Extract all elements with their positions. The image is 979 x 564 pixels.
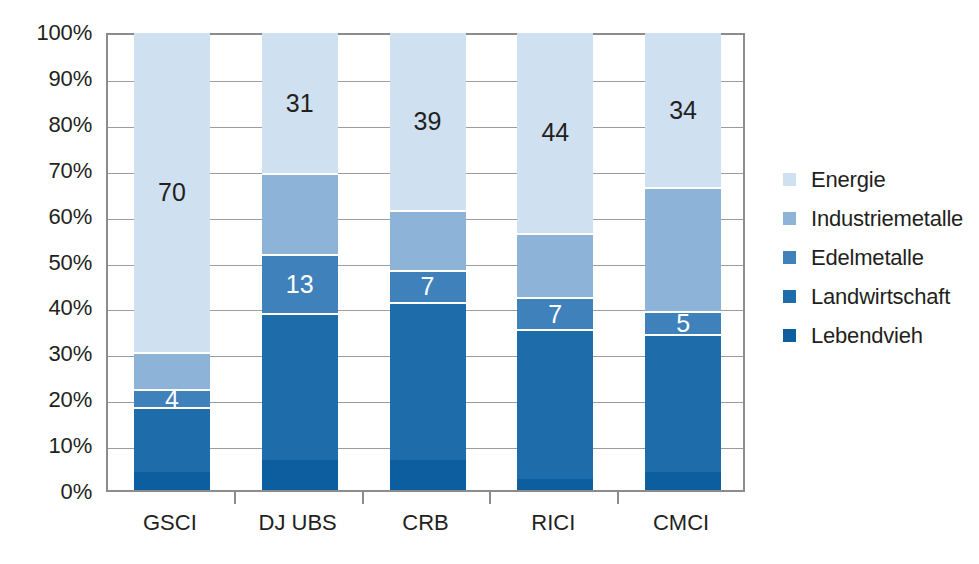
bar-segment[interactable] — [134, 407, 210, 471]
legend-swatch-icon — [783, 212, 796, 225]
bar-segment[interactable] — [517, 329, 593, 478]
bar-segment[interactable]: 7 — [517, 297, 593, 329]
x-tick-label: CRB — [402, 510, 448, 536]
legend-swatch-icon — [783, 173, 796, 186]
bar-segment[interactable]: 44 — [517, 31, 593, 233]
bar-value-label: 13 — [286, 272, 314, 297]
legend-swatch-icon — [783, 290, 796, 303]
legend-label: Industriemetalle — [811, 206, 963, 232]
bar-segment[interactable] — [390, 210, 466, 270]
bar-series-group: 4701331739744534 — [108, 35, 743, 490]
bar-segment[interactable] — [390, 302, 466, 460]
legend-swatch-icon — [783, 329, 796, 342]
y-tick-label: 50% — [49, 250, 92, 276]
bar-segment[interactable] — [390, 460, 466, 490]
y-tick-label: 70% — [49, 158, 92, 184]
bar-segment[interactable] — [262, 313, 338, 460]
y-tick-label: 10% — [49, 433, 92, 459]
legend-item[interactable]: Edelmetalle — [783, 238, 979, 277]
x-tickmark — [234, 492, 236, 504]
bar-value-label: 39 — [414, 109, 442, 134]
x-tickmark — [362, 492, 364, 504]
legend-label: Landwirtschaft — [811, 284, 950, 310]
bar-segment[interactable] — [517, 479, 593, 490]
bar-value-label: 34 — [669, 98, 697, 123]
chart-legend: EnergieIndustriemetalleEdelmetalleLandwi… — [783, 160, 979, 355]
bar-segment[interactable] — [134, 352, 210, 389]
bar-segment[interactable] — [262, 173, 338, 253]
legend-item[interactable]: Industriemetalle — [783, 199, 979, 238]
x-tick-label: CMCI — [653, 510, 709, 536]
bar-segment[interactable] — [645, 187, 721, 311]
legend-label: Energie — [811, 167, 885, 193]
bar-segment[interactable] — [262, 460, 338, 490]
bar-value-label: 7 — [548, 302, 562, 327]
bar-segment[interactable]: 34 — [645, 31, 721, 187]
legend-item[interactable]: Lebendvieh — [783, 316, 979, 355]
plot-area: 4701331739744534 — [106, 33, 745, 492]
y-tick-label: 20% — [49, 387, 92, 413]
x-tick-label: DJ UBS — [259, 510, 337, 536]
legend-item[interactable]: Energie — [783, 160, 979, 199]
bar-segment[interactable] — [134, 472, 210, 490]
legend-item[interactable]: Landwirtschaft — [783, 277, 979, 316]
x-tick-label: GSCI — [143, 510, 197, 536]
y-tick-label: 40% — [49, 295, 92, 321]
bar-column[interactable]: 534 — [645, 35, 721, 490]
y-tick-label: 60% — [49, 204, 92, 230]
x-tick-label: RICI — [531, 510, 575, 536]
bar-stack: 739 — [390, 35, 466, 490]
bar-stack: 744 — [517, 35, 593, 490]
bar-segment[interactable]: 13 — [262, 254, 338, 314]
y-tick-label: 30% — [49, 341, 92, 367]
x-tickmark — [617, 492, 619, 504]
x-axis: GSCIDJ UBSCRBRICICMCI — [106, 492, 745, 552]
legend-swatch-icon — [783, 251, 796, 264]
y-tick-label: 100% — [37, 20, 92, 46]
bar-segment[interactable] — [645, 334, 721, 472]
bar-segment[interactable]: 7 — [390, 270, 466, 302]
bar-segment[interactable]: 4 — [134, 389, 210, 407]
bar-stack: 534 — [645, 35, 721, 490]
bar-segment[interactable] — [517, 233, 593, 297]
bar-column[interactable]: 739 — [390, 35, 466, 490]
bar-stack: 470 — [134, 35, 210, 490]
bar-stack: 1331 — [262, 35, 338, 490]
y-tick-label: 90% — [49, 66, 92, 92]
y-tick-label: 0% — [61, 479, 92, 505]
legend-label: Edelmetalle — [811, 245, 924, 271]
x-tickmark — [489, 492, 491, 504]
chart-figure: 0%10%20%30%40%50%60%70%80%90%100% 470133… — [0, 0, 979, 564]
bar-value-label: 7 — [421, 274, 435, 299]
bar-column[interactable]: 1331 — [262, 35, 338, 490]
bar-value-label: 31 — [286, 91, 314, 116]
bar-column[interactable]: 744 — [517, 35, 593, 490]
bar-column[interactable]: 470 — [134, 35, 210, 490]
bar-segment[interactable]: 39 — [390, 31, 466, 210]
bar-value-label: 70 — [158, 180, 186, 205]
bar-segment[interactable]: 31 — [262, 31, 338, 173]
bar-segment[interactable]: 70 — [134, 31, 210, 352]
y-tick-label: 80% — [49, 112, 92, 138]
bar-value-label: 5 — [676, 311, 690, 336]
y-axis: 0%10%20%30%40%50%60%70%80%90%100% — [0, 33, 100, 492]
bar-segment[interactable]: 5 — [645, 311, 721, 334]
legend-label: Lebendvieh — [811, 323, 923, 349]
bar-segment[interactable] — [645, 472, 721, 490]
bar-value-label: 44 — [541, 120, 569, 145]
